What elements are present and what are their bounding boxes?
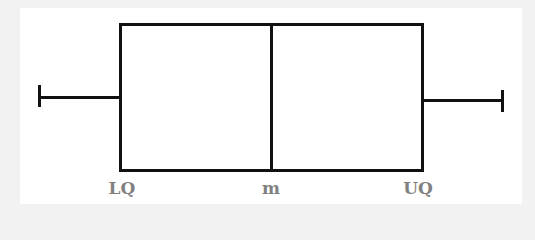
median-line [270, 24, 273, 170]
right-whisker-cap [501, 90, 504, 112]
median-label: m [262, 178, 280, 198]
right-whisker-line [422, 99, 502, 102]
upper-quartile-label: UQ [403, 178, 433, 198]
left-whisker-line [39, 96, 121, 99]
lower-quartile-label: LQ [109, 178, 136, 198]
left-whisker-cap [38, 85, 41, 107]
